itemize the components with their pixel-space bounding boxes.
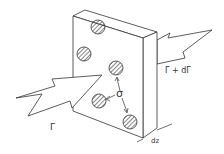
slab-side-face: [143, 32, 157, 138]
spacing-label: σ: [116, 87, 123, 100]
flux-slab-diagram: σ Γ + dΓ Γ dz: [0, 0, 224, 154]
pore-4: [92, 94, 106, 108]
pore-2: [77, 47, 91, 61]
pore-3: [109, 61, 123, 75]
pore-5: [123, 115, 137, 129]
outgoing-flux-label: Γ + dΓ: [165, 66, 191, 75]
thickness-label: dz: [151, 137, 159, 145]
pore-1: [91, 20, 105, 34]
outgoing-flux-arrow: [157, 30, 212, 64]
incoming-flux-label: Γ: [50, 122, 55, 132]
